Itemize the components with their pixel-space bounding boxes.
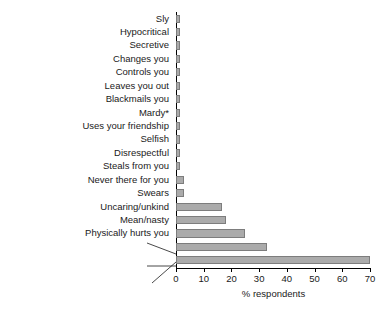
bar [176,256,370,264]
x-tick [315,268,316,272]
bar [176,229,245,237]
bar-row [176,149,370,157]
category-label: Hypocritical [120,27,169,38]
category-label: Blackmails you [106,94,169,105]
x-tick-label: 30 [247,273,271,284]
category-label: Mean/nasty [120,215,169,226]
category-label: Secretive [129,40,169,51]
bar-row [176,68,370,76]
x-tick [287,268,288,272]
bar [176,95,180,103]
bar [176,109,180,117]
category-label: Mardy* [139,108,169,119]
bar-row [176,203,370,211]
bar [176,243,267,251]
bar [176,55,180,63]
category-label: Steals from you [103,161,169,172]
bar [176,28,180,36]
x-tick [370,268,371,272]
plot-area [176,12,370,267]
bar-row [176,162,370,170]
bar-row [176,243,370,251]
bar [176,176,184,184]
category-label: Uncaring/unkind [100,202,169,213]
bar [176,15,180,23]
bar-row [176,55,370,63]
category-label: Sly [156,14,169,25]
x-tick-label: 0 [164,273,188,284]
category-label: Never there for you [88,175,169,186]
bar-row [176,95,370,103]
bar-row [176,82,370,90]
bar [176,189,184,197]
category-label: Uses your friendship [82,121,169,132]
x-tick-label: 70 [358,273,382,284]
bar-row [176,15,370,23]
x-tick [342,268,343,272]
bar-row [176,135,370,143]
x-tick-label: 20 [219,273,243,284]
x-tick-label: 60 [330,273,354,284]
x-tick [176,268,177,272]
bar-row [176,189,370,197]
bar [176,135,180,143]
bar [176,162,180,170]
category-label: Controls you [116,67,169,78]
bar [176,216,226,224]
bar-row [176,176,370,184]
bar [176,82,180,90]
category-label: Disrespectful [114,148,169,159]
bar-chart: SlyHypocriticalSecretiveChanges youContr… [0,0,383,324]
category-axis-labels: SlyHypocriticalSecretiveChanges youContr… [0,12,173,268]
bar-row [176,256,370,264]
bar [176,68,180,76]
category-label: Leaves you out [105,81,169,92]
bar [176,149,180,157]
category-label: Physically hurts you [85,228,169,239]
bar-row [176,229,370,237]
category-label: Selfish [140,134,169,145]
category-label: Swears [137,188,169,199]
x-tick-label: 40 [275,273,299,284]
bar-row [176,41,370,49]
bar-row [176,122,370,130]
bar-row [176,109,370,117]
bar-rows [176,12,370,267]
x-tick [231,268,232,272]
category-label: Changes you [113,54,169,65]
bar-row [176,28,370,36]
x-tick [259,268,260,272]
x-tick-label: 10 [192,273,216,284]
x-tick-label: 50 [303,273,327,284]
bar [176,203,222,211]
bar [176,41,180,49]
x-tick [204,268,205,272]
x-axis-title: % respondents [176,288,371,299]
bar [176,122,180,130]
bar-row [176,216,370,224]
